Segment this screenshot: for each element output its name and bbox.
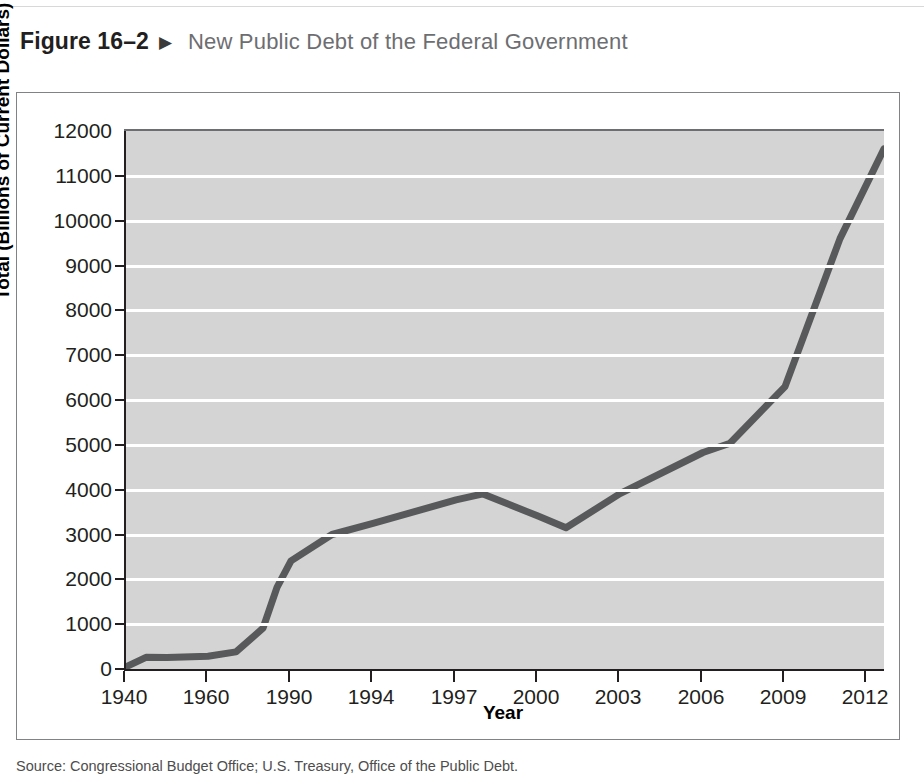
y-axis-tick-label: 7000	[0, 343, 112, 367]
plot-area	[124, 131, 884, 671]
x-axis-tick	[205, 671, 207, 682]
x-axis-tick	[535, 671, 537, 682]
series-polyline	[126, 149, 884, 667]
gridline	[126, 534, 884, 537]
source-note: Source: Congressional Budget Office; U.S…	[16, 758, 518, 774]
triangle-right-icon: ▶	[159, 34, 172, 51]
x-axis-title: Year	[124, 702, 882, 724]
gridline	[126, 265, 884, 268]
x-axis-tick	[864, 671, 866, 682]
y-axis-tick-label: 1000	[0, 612, 112, 636]
y-axis-tick-label: 8000	[0, 298, 112, 322]
y-axis-labels: 0100020003000400050006000700080009000100…	[0, 0, 112, 780]
y-axis-tick	[115, 354, 125, 356]
gridline	[126, 444, 884, 447]
x-axis-tick	[370, 671, 372, 682]
y-axis-tick	[115, 444, 125, 446]
x-axis-tick	[453, 671, 455, 682]
y-axis-tick	[115, 175, 125, 177]
y-axis-tick-label: 0	[0, 657, 112, 681]
y-axis-tick-label: 2000	[0, 567, 112, 591]
y-axis-tick-label: 6000	[0, 388, 112, 412]
y-axis-tick-label: 5000	[0, 433, 112, 457]
y-axis-tick-label: 10000	[0, 209, 112, 233]
x-axis-tick	[123, 671, 125, 682]
y-axis-tick	[115, 578, 125, 580]
y-axis-tick-label: 11000	[0, 164, 112, 188]
y-axis-tick	[115, 489, 125, 491]
figure-title: New Public Debt of the Federal Governmen…	[182, 29, 628, 55]
x-axis-tick	[617, 671, 619, 682]
gridline	[126, 175, 884, 178]
y-axis-tick	[115, 623, 125, 625]
y-axis-tick-label: 9000	[0, 254, 112, 278]
y-axis-tick	[115, 668, 125, 670]
gridline	[126, 489, 884, 492]
top-divider	[0, 6, 924, 7]
y-axis-tick-label: 4000	[0, 478, 112, 502]
y-axis-tick-label: 3000	[0, 523, 112, 547]
gridline	[126, 354, 884, 357]
gridline	[126, 399, 884, 402]
gridline	[126, 220, 884, 223]
y-axis-tick	[115, 220, 125, 222]
x-axis-tick	[782, 671, 784, 682]
x-axis-tick	[288, 671, 290, 682]
y-axis-tick	[115, 399, 125, 401]
y-axis-tick	[115, 265, 125, 267]
y-axis-tick	[115, 534, 125, 536]
gridline	[126, 623, 884, 626]
gridline	[126, 309, 884, 312]
x-axis-tick	[700, 671, 702, 682]
y-axis-tick	[115, 309, 125, 311]
y-axis-tick-label: 12000	[0, 119, 112, 143]
gridline	[126, 578, 884, 581]
